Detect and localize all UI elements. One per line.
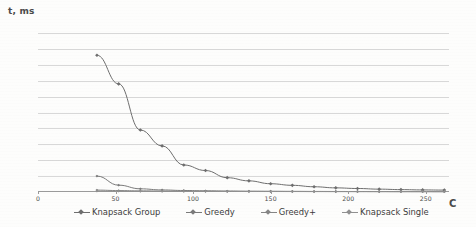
data-point-marker <box>312 185 316 189</box>
plot-area <box>38 33 449 192</box>
data-point-marker <box>139 128 143 132</box>
chart-legend: Knapsack GroupGreedyGreedy+Knapsack Sing… <box>0 207 476 217</box>
data-point-marker <box>334 186 338 190</box>
legend-marker-icon <box>342 208 358 216</box>
y-axis-title: t, ms <box>8 6 35 16</box>
legend-label: Greedy+ <box>279 207 316 217</box>
x-tick-mark <box>193 191 194 194</box>
x-tick-mark <box>38 191 39 194</box>
legend-marker-icon <box>261 208 277 216</box>
data-point-marker <box>334 190 337 193</box>
x-tick-label: 200 <box>328 195 368 202</box>
x-tick-mark <box>426 191 427 194</box>
legend-label: Greedy <box>204 207 234 217</box>
legend-item[interactable]: Knapsack Single <box>342 207 429 217</box>
legend-item[interactable]: Knapsack Group <box>74 207 160 217</box>
data-point-marker <box>291 190 294 193</box>
data-point-marker <box>139 190 142 193</box>
series-lines <box>38 33 449 192</box>
data-point-marker <box>182 163 186 167</box>
x-tick-mark <box>271 191 272 194</box>
x-tick-mark <box>116 191 117 194</box>
x-tick-label: 0 <box>18 195 58 202</box>
data-point-marker <box>160 144 164 148</box>
x-tick-label: 50 <box>96 195 136 202</box>
data-point-marker <box>226 190 229 193</box>
data-point-marker <box>356 187 360 191</box>
legend-marker-icon <box>74 208 90 216</box>
legend-label: Knapsack Single <box>360 207 429 217</box>
data-point-marker <box>291 183 295 187</box>
data-point-marker <box>378 190 381 193</box>
x-tick-label: 250 <box>406 195 446 202</box>
data-point-marker <box>95 53 99 57</box>
legend-item[interactable]: Greedy+ <box>261 207 316 217</box>
data-point-marker <box>117 184 120 187</box>
x-tick-mark <box>348 191 349 194</box>
data-point-marker <box>204 169 208 173</box>
x-tick-label: 100 <box>173 195 213 202</box>
data-point-marker <box>313 190 316 193</box>
chart-figure: t, ms C 01000200030004000500060007000800… <box>0 0 476 227</box>
data-point-marker <box>247 179 251 183</box>
data-point-marker <box>269 182 273 186</box>
legend-item[interactable]: Greedy <box>186 207 234 217</box>
data-point-marker <box>248 190 251 193</box>
data-point-marker <box>400 190 403 193</box>
series-line <box>97 55 444 190</box>
legend-marker-icon <box>186 208 202 216</box>
data-point-marker <box>225 176 229 180</box>
x-tick-label: 150 <box>251 195 291 202</box>
legend-label: Knapsack Group <box>92 207 160 217</box>
data-point-marker <box>96 175 99 178</box>
data-point-marker <box>117 82 121 86</box>
data-point-marker <box>356 190 359 193</box>
